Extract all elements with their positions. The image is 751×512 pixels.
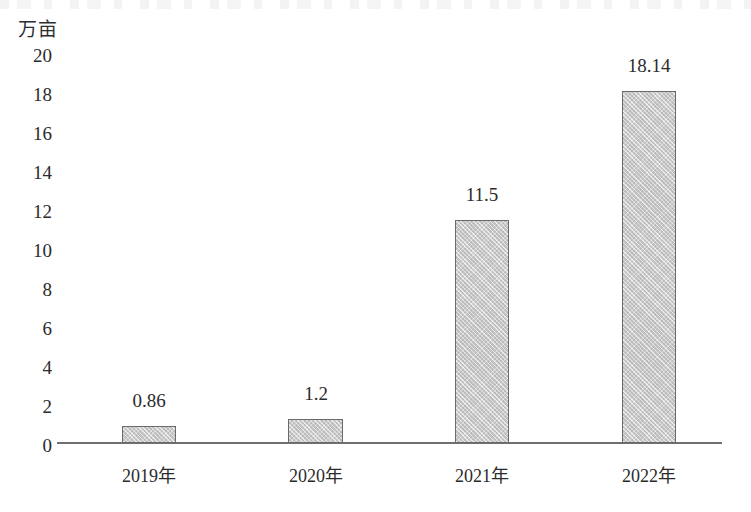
x-axis-label-2020: 2020年 [266, 466, 366, 486]
y-axis-tick-10: 10 [8, 241, 52, 260]
y-axis-tick-4: 4 [8, 358, 52, 377]
y-axis-tick-2: 2 [8, 397, 52, 416]
value-label-2021: 11.5 [432, 185, 532, 204]
y-axis-tick-16: 16 [8, 124, 52, 143]
bar-2020 [288, 419, 343, 443]
y-axis-tick-20: 20 [8, 46, 52, 65]
y-axis-unit-label: 万亩 [18, 19, 58, 41]
x-axis-label-2019: 2019年 [99, 466, 199, 486]
value-label-2019: 0.86 [99, 391, 199, 410]
x-axis-label-2021: 2021年 [432, 466, 532, 486]
bar-2021 [455, 220, 509, 443]
y-axis-tick-6: 6 [8, 319, 52, 338]
value-label-2022: 18.14 [599, 56, 699, 75]
y-axis-tick-18: 18 [8, 85, 52, 104]
bar-2019 [122, 426, 176, 443]
y-axis-tick-14: 14 [8, 163, 52, 182]
y-axis-tick-12: 12 [8, 202, 52, 221]
y-axis-tick-0: 0 [8, 436, 52, 455]
bar-chart: 万亩 20 18 16 14 12 10 8 6 4 2 0 0.86 1.2 … [0, 0, 751, 512]
bar-2022 [622, 91, 676, 443]
y-axis-tick-8: 8 [8, 280, 52, 299]
x-axis-label-2022: 2022年 [599, 466, 699, 486]
value-label-2020: 1.2 [266, 384, 366, 403]
